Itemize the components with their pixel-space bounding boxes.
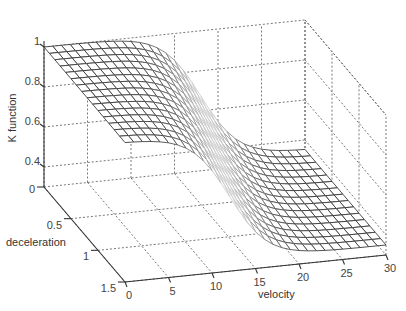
z-axis-label: K function <box>6 94 18 143</box>
svg-text:1: 1 <box>83 250 89 262</box>
svg-text:15: 15 <box>253 276 265 288</box>
svg-text:30: 30 <box>384 262 396 274</box>
svg-text:0.5: 0.5 <box>47 219 62 231</box>
svg-text:0.6: 0.6 <box>25 115 40 127</box>
x-axis-label: velocity <box>258 288 295 300</box>
surface-mesh <box>44 41 386 251</box>
svg-text:0.4: 0.4 <box>25 155 40 167</box>
svg-text:25: 25 <box>340 267 352 279</box>
svg-text:0.8: 0.8 <box>25 75 40 87</box>
svg-text:10: 10 <box>210 280 222 292</box>
svg-text:0: 0 <box>126 289 132 301</box>
svg-text:1: 1 <box>34 35 40 47</box>
surface-plot: 0.40.60.8100.511.5051015202530 K functio… <box>0 0 406 311</box>
svg-text:1.5: 1.5 <box>101 282 116 294</box>
svg-text:20: 20 <box>297 271 309 283</box>
svg-text:5: 5 <box>169 285 175 297</box>
y-axis-label: deceleration <box>6 236 66 248</box>
svg-text:0: 0 <box>29 183 35 195</box>
